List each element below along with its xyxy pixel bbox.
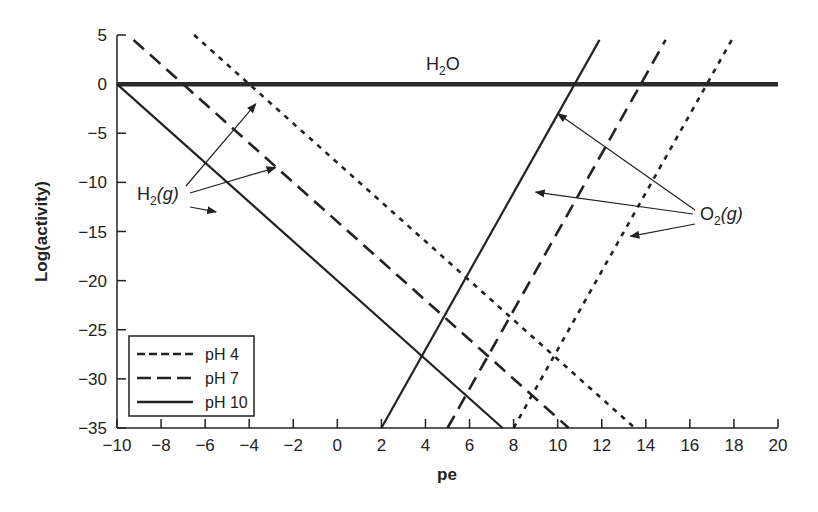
x-tick-label: 4 [421, 436, 430, 455]
annotations: H2O H2(g) O2(g) [137, 54, 743, 236]
x-tick-label: 10 [548, 436, 567, 455]
series-line-o2-g-ph-4 [514, 40, 732, 428]
legend-label: pH 4 [205, 346, 239, 363]
h2o-label: H2O [426, 54, 460, 78]
x-tick-label: −8 [151, 436, 170, 455]
x-tick-label: −10 [103, 436, 132, 455]
x-tick-label: 12 [592, 436, 611, 455]
y-tick-label: −15 [78, 223, 107, 242]
series-line-o2-g-ph-7 [448, 40, 666, 428]
y-tick-label: 0 [98, 75, 107, 94]
h2-gas-label: H2(g) [137, 184, 179, 208]
y-tick-label: −20 [78, 272, 107, 291]
y-tick-label: −10 [78, 173, 107, 192]
x-tick-label: 6 [465, 436, 474, 455]
y-tick-label: −25 [78, 321, 107, 340]
legend-label: pH 10 [205, 394, 248, 411]
annotation-arrow [190, 207, 216, 212]
y-tick-label: 5 [98, 26, 107, 45]
x-tick-label: 14 [636, 436, 655, 455]
pe-log-activity-chart: 50−5−10−15−20−25−30−35−10−8−6−4−20246810… [0, 0, 818, 512]
x-tick-label: −4 [240, 436, 259, 455]
x-tick-label: 20 [769, 436, 788, 455]
x-tick-label: 16 [680, 436, 699, 455]
x-tick-label: 0 [333, 436, 342, 455]
x-tick-label: 8 [509, 436, 518, 455]
x-tick-label: 2 [377, 436, 386, 455]
series-line-o2-g-ph-10 [381, 40, 599, 428]
legend-label: pH 7 [205, 370, 239, 387]
annotation-arrow [536, 192, 693, 214]
legend: pH 4pH 7pH 10 [129, 336, 254, 416]
o2-gas-label: O2(g) [700, 204, 743, 228]
y-axis-title: Log(activity) [32, 181, 51, 282]
y-tick-label: −5 [88, 124, 107, 143]
x-axis-title: pe [437, 465, 457, 484]
x-tick-label: −6 [195, 436, 214, 455]
annotation-arrow [190, 168, 276, 193]
x-tick-label: 18 [724, 436, 743, 455]
annotation-arrow [630, 224, 695, 236]
y-tick-label: −30 [78, 370, 107, 389]
x-tick-label: −2 [284, 436, 303, 455]
